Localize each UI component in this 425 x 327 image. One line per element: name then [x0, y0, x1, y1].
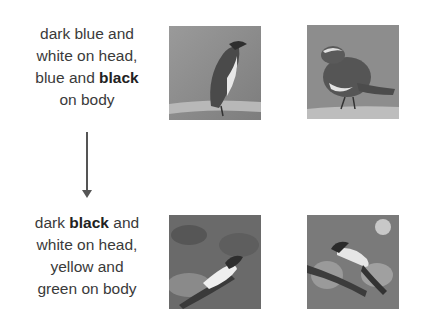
- bird-image-top-left: [169, 26, 261, 120]
- caption-line: white on head,: [12, 45, 162, 67]
- caption-line: dark blue and: [12, 23, 162, 45]
- caption-modified: dark black and white on head, yellow and…: [12, 212, 162, 300]
- down-arrow-icon: [82, 190, 92, 198]
- caption-line: white on head,: [12, 234, 162, 256]
- caption-line: on body: [12, 89, 162, 111]
- caption-original: dark blue and white on head, blue and bl…: [12, 23, 162, 111]
- down-arrow-shaft: [86, 132, 88, 192]
- bird-image-bottom-right: [307, 215, 399, 309]
- caption-bold-word: black: [69, 214, 109, 231]
- bird-image-bottom-left: [169, 215, 261, 309]
- bird-image-top-right: [307, 25, 399, 119]
- caption-text: blue and: [35, 69, 99, 86]
- caption-line: green on body: [12, 278, 162, 300]
- caption-line: blue and black: [12, 67, 162, 89]
- caption-text: and: [109, 214, 139, 231]
- caption-line: dark black and: [12, 212, 162, 234]
- caption-text: dark: [35, 214, 69, 231]
- caption-bold-word: black: [99, 69, 139, 86]
- caption-line: yellow and: [12, 256, 162, 278]
